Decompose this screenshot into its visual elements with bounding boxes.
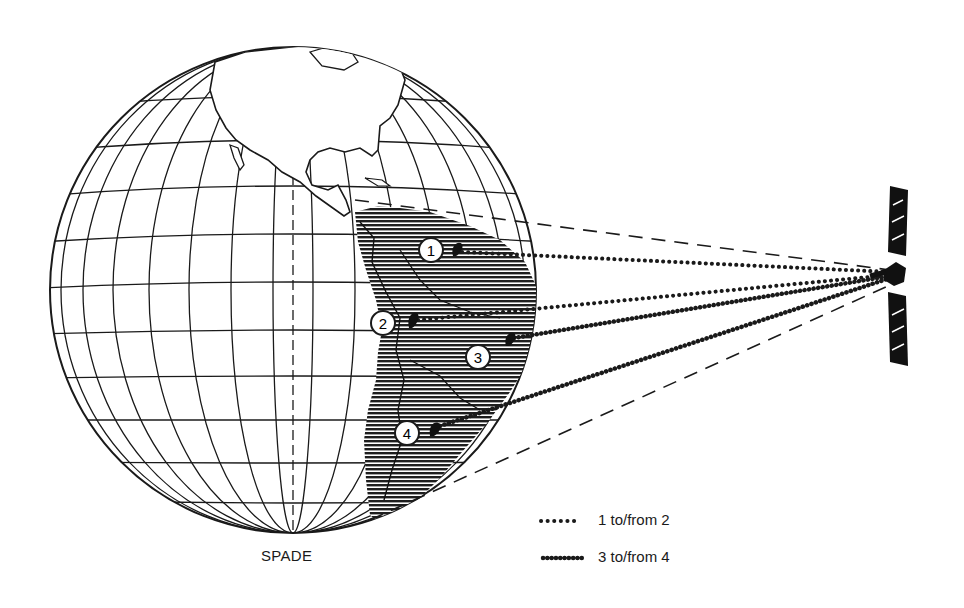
legend-label: 1 to/from 2 [598, 511, 670, 528]
station-2-label: 2 [379, 315, 387, 332]
figure-caption: SPADE [261, 547, 312, 564]
spade-diagram: 1 2 3 4 SPADE 1 to/from 2 3 to/fro [0, 0, 964, 608]
legend-item-1-2: 1 to/from 2 [598, 511, 670, 528]
satellite-icon [870, 186, 908, 366]
globe [40, 40, 546, 540]
station-1-label: 1 [427, 242, 435, 259]
station-4-label: 4 [403, 425, 411, 442]
station-3-label: 3 [474, 349, 482, 366]
legend-label: 3 to/from 4 [598, 548, 670, 565]
legend-item-3-4: 3 to/from 4 [598, 548, 670, 565]
diagram-canvas: 1 2 3 4 [0, 0, 964, 608]
